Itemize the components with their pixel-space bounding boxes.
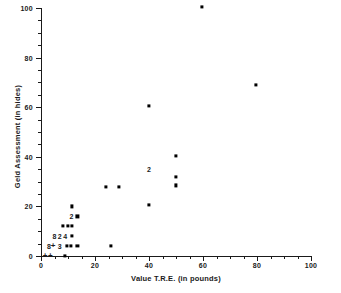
y-tick-minor	[38, 95, 41, 96]
point-count-label: 4	[63, 233, 67, 240]
x-tick-minor	[109, 256, 110, 259]
data-point	[66, 225, 69, 228]
x-tick-major	[257, 256, 258, 261]
data-point	[110, 244, 113, 247]
point-count-label: 3	[58, 243, 62, 250]
x-tick-minor	[68, 256, 69, 259]
x-tick-minor	[271, 256, 272, 259]
y-tick-minor	[38, 219, 41, 220]
point-count-label: 2	[147, 166, 151, 173]
data-point	[76, 215, 79, 218]
y-axis-title: Geld Assessment (in hides)	[13, 62, 22, 212]
x-tick-label: 40	[145, 262, 153, 269]
data-point	[118, 185, 121, 188]
x-tick-label: 0	[39, 262, 43, 269]
data-point	[254, 83, 257, 86]
data-point	[147, 104, 150, 107]
x-tick-minor	[244, 256, 245, 259]
y-tick-minor	[38, 194, 41, 195]
y-tick-minor	[38, 231, 41, 232]
x-tick-minor	[230, 256, 231, 259]
data-point	[147, 204, 150, 207]
x-tick-minor	[82, 256, 83, 259]
y-tick-minor	[38, 169, 41, 170]
x-tick-minor	[217, 256, 218, 259]
y-axis-line	[41, 8, 42, 256]
x-tick-minor	[298, 256, 299, 259]
y-tick-minor	[38, 132, 41, 133]
data-point	[64, 254, 67, 257]
scatter-chart: 020406080100020406080100 2282483+++ Valu…	[0, 0, 341, 293]
data-point	[70, 205, 73, 208]
y-tick-major	[36, 256, 41, 257]
y-tick-minor	[38, 120, 41, 121]
y-tick-label: 80	[0, 54, 33, 61]
x-tick-minor	[176, 256, 177, 259]
x-tick-major	[311, 256, 312, 261]
y-tick-minor	[38, 244, 41, 245]
data-point	[174, 175, 177, 178]
x-tick-minor	[136, 256, 137, 259]
data-point	[61, 225, 64, 228]
x-tick-minor	[284, 256, 285, 259]
data-point	[174, 184, 177, 187]
y-tick-major	[36, 58, 41, 59]
plus-marker: +	[51, 242, 56, 250]
y-tick-major	[36, 157, 41, 158]
x-tick-major	[149, 256, 150, 261]
y-tick-major	[36, 107, 41, 108]
x-tick-minor	[190, 256, 191, 259]
x-tick-label: 20	[91, 262, 99, 269]
y-tick-minor	[38, 45, 41, 46]
x-axis-title: Value T.R.E. (in pounds)	[41, 274, 311, 283]
x-tick-label: 80	[253, 262, 261, 269]
data-point	[200, 5, 203, 8]
point-count-label: 2	[58, 233, 62, 240]
point-count-label: 2	[69, 213, 73, 220]
y-tick-minor	[38, 182, 41, 183]
data-point	[69, 244, 72, 247]
x-tick-label: 60	[199, 262, 207, 269]
y-tick-major	[36, 206, 41, 207]
y-tick-label: 100	[0, 5, 33, 12]
y-tick-minor	[38, 82, 41, 83]
data-point	[70, 225, 73, 228]
data-point	[174, 154, 177, 157]
x-tick-minor	[122, 256, 123, 259]
point-count-label: 8	[52, 233, 56, 240]
data-point	[76, 244, 79, 247]
x-tick-minor	[55, 256, 56, 259]
data-point	[104, 185, 107, 188]
y-tick-minor	[38, 144, 41, 145]
y-tick-minor	[38, 70, 41, 71]
plus-marker: +	[48, 252, 53, 260]
y-tick-label: 0	[0, 253, 33, 260]
y-tick-minor	[38, 33, 41, 34]
x-tick-major	[203, 256, 204, 261]
y-tick-major	[36, 8, 41, 9]
x-tick-label: 100	[305, 262, 318, 269]
x-tick-minor	[163, 256, 164, 259]
data-point	[65, 244, 68, 247]
plus-marker: +	[43, 252, 48, 260]
x-tick-major	[95, 256, 96, 261]
y-tick-minor	[38, 20, 41, 21]
data-point	[70, 235, 73, 238]
